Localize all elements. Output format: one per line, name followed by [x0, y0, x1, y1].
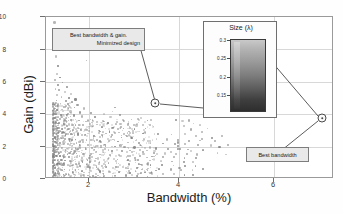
inset-tick-label-1: 0.25 — [208, 56, 226, 61]
inset-tick-label-3: 0.15 — [208, 93, 226, 98]
inset-size-image — [230, 39, 266, 112]
callout-best-bandwidth[interactable]: Best bandwidth — [246, 147, 309, 162]
inset-size-panel: Size (λ) 0.3 0.25 0.2 0.15 — [203, 21, 277, 118]
callout-gain-line2: Minimized design — [57, 39, 140, 47]
callout-gain-line1: Best bandwidth & gain. — [57, 31, 140, 39]
callout-best-bandwidth-and-gain[interactable]: Best bandwidth & gain. Minimized design — [52, 28, 145, 51]
figure-scatter-gain-vs-bandwidth: 10 8 6 4 2 0 2 4 6 Gain (dBi) Bandwidth … — [0, 0, 343, 214]
inset-tick-label-2: 0.2 — [208, 75, 226, 80]
callout-bandwidth-label: Best bandwidth — [250, 151, 305, 159]
leader-line-best-bandwidth — [282, 121, 318, 150]
leader-line-best-gain — [140, 47, 155, 101]
inset-highlight — [234, 42, 240, 109]
inset-tick-label-0: 0.3 — [208, 38, 226, 43]
marker-best-bandwidth-and-gain[interactable] — [151, 99, 160, 108]
marker-best-bandwidth[interactable] — [318, 114, 327, 123]
inset-title: Size (λ) — [204, 24, 278, 31]
